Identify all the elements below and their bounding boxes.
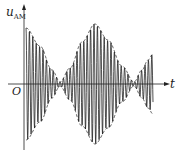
y-axis-label: uAM	[6, 6, 26, 21]
origin-label: O	[12, 86, 21, 97]
x-axis-label: t	[170, 78, 175, 90]
am-waveform-diagram	[0, 0, 178, 156]
